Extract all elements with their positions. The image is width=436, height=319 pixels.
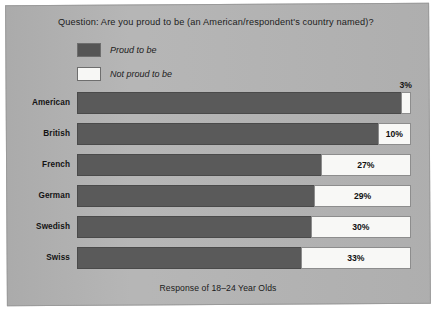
bar-segment-proud [77, 247, 301, 269]
chart-caption: Response of 18–24 Year Olds [0, 283, 436, 293]
row-label-french: French [8, 160, 70, 169]
bar-segment-not-proud: 3% [401, 92, 411, 114]
bar-segment-proud [77, 92, 401, 114]
bar-segment-proud [77, 216, 311, 238]
bar-value-label: 3% [400, 80, 412, 90]
row-label-swedish: Swedish [8, 222, 70, 231]
chart-question-title: Question: Are you proud to be (an Americ… [58, 17, 374, 27]
row-label-american: American [8, 98, 70, 107]
bar-row-american: 3% [77, 92, 411, 114]
legend-swatch-not-proud [77, 67, 101, 81]
bar-segment-proud [77, 123, 378, 145]
bar-segment-proud [77, 185, 314, 207]
bar-row-french: 27% [77, 154, 411, 176]
bar-value-label: 33% [347, 253, 364, 263]
legend-label-not-proud: Not proud to be [110, 69, 172, 79]
bar-row-german: 29% [77, 185, 411, 207]
bar-segment-proud [77, 154, 321, 176]
bar-segment-not-proud: 10% [378, 123, 411, 145]
bar-row-swedish: 30% [77, 216, 411, 238]
bar-segment-not-proud: 29% [314, 185, 411, 207]
chart-content: Question: Are you proud to be (an Americ… [0, 0, 436, 319]
bar-row-swiss: 33% [77, 247, 411, 269]
row-label-british: British [8, 129, 70, 138]
bar-value-label: 30% [352, 222, 369, 232]
bar-segment-not-proud: 30% [311, 216, 411, 238]
bar-row-british: 10% [77, 123, 411, 145]
legend-label-proud: Proud to be [110, 45, 157, 55]
bar-value-label: 27% [357, 160, 374, 170]
row-label-german: German [8, 191, 70, 200]
bar-segment-not-proud: 33% [301, 247, 411, 269]
chart-page: Question: Are you proud to be (an Americ… [0, 0, 436, 319]
bar-value-label: 29% [354, 191, 371, 201]
bar-segment-not-proud: 27% [321, 154, 411, 176]
bar-value-label: 10% [386, 129, 403, 139]
legend-swatch-proud [77, 43, 101, 57]
row-label-swiss: Swiss [8, 253, 70, 262]
